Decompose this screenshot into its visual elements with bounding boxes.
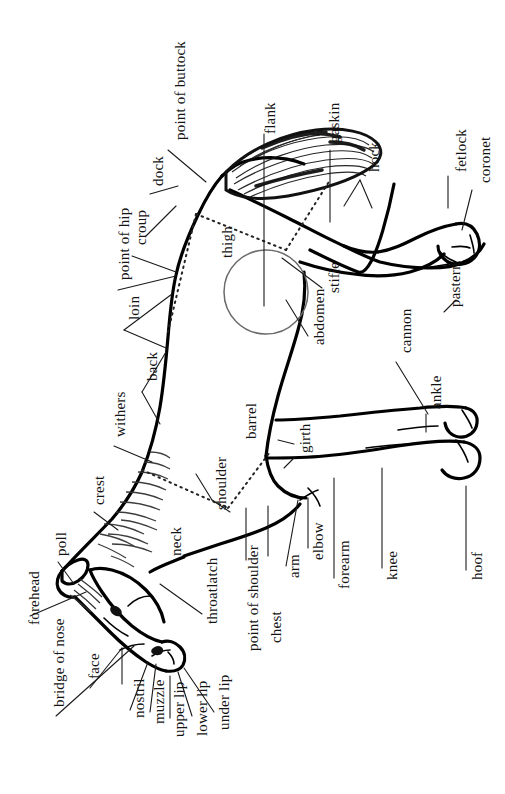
- label-fetlock: fetlock: [454, 129, 469, 172]
- label-neck: neck: [169, 527, 184, 556]
- label-point-of-hip: point of hip: [117, 208, 132, 280]
- label-upper-lip: upper lip: [172, 681, 187, 737]
- label-stifle: stifle: [327, 262, 342, 293]
- label-arm: arm: [287, 554, 302, 578]
- mane-hatching: [98, 452, 170, 567]
- label-dock: dock: [151, 156, 166, 186]
- label-croup: croup: [134, 210, 149, 245]
- label-face: face: [87, 653, 102, 679]
- label-poll: poll: [54, 532, 69, 556]
- label-forehead: forehead: [27, 571, 42, 625]
- label-abdomen: abdomen: [312, 289, 327, 345]
- label-crest: crest: [92, 476, 107, 505]
- label-knee: knee: [385, 551, 400, 580]
- label-elbow: elbow: [311, 522, 326, 560]
- label-hock: hock: [367, 142, 382, 172]
- label-throatlatch: throatlatch: [205, 558, 220, 624]
- label-loin: loin: [127, 296, 142, 320]
- label-back: back: [145, 352, 160, 381]
- label-ankle: ankle: [429, 376, 444, 409]
- label-withers: withers: [113, 391, 128, 437]
- label-muzzle: muzzle: [152, 679, 167, 724]
- label-barrel: barrel: [244, 403, 259, 439]
- label-nostril: nostril: [132, 678, 147, 718]
- label-flank: flank: [263, 102, 278, 134]
- label-coronet: coronet: [478, 137, 493, 183]
- label-bridge-of-nose: bridge of nose: [52, 618, 67, 707]
- horse-anatomy-diagram: point of buttock flank gaskin hock fetlo…: [0, 0, 505, 794]
- reference-circle: [224, 250, 308, 334]
- label-gaskin: gaskin: [327, 103, 342, 143]
- label-girth: girth: [298, 424, 313, 453]
- label-thigh: thigh: [220, 226, 235, 258]
- interior-detail-lines: [104, 235, 474, 664]
- label-hoof: hoof: [470, 552, 485, 580]
- label-lower-lip: lower lip: [195, 680, 210, 736]
- label-point-of-shoulder: point of shoulder: [246, 545, 261, 651]
- nostril-mark: [151, 646, 163, 655]
- label-cannon: cannon: [399, 308, 414, 353]
- label-pastern: pastern: [448, 262, 463, 307]
- label-shoulder: shoulder: [214, 457, 229, 510]
- label-under-lip: under lip: [217, 674, 232, 730]
- label-forearm: forearm: [337, 540, 352, 589]
- tail: [226, 129, 381, 198]
- label-point-of-buttock: point of buttock: [173, 41, 188, 140]
- label-chest: chest: [269, 611, 284, 643]
